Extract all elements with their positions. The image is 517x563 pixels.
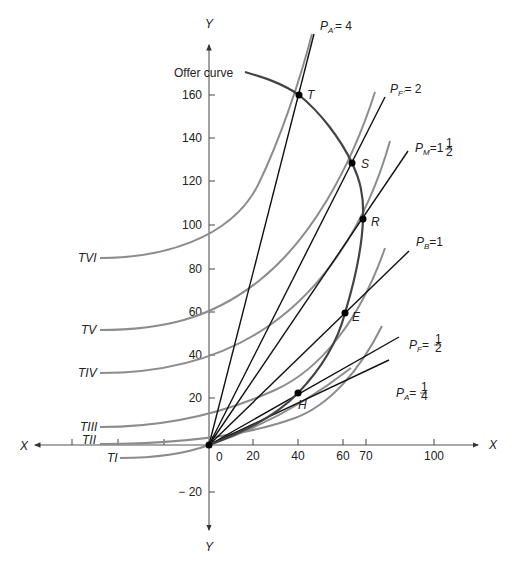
label-pf-frac-den: 2 <box>435 341 442 355</box>
offer-curve-chart: 160 140 120 100 80 60 40 20 − 20 0 20 40… <box>0 0 517 563</box>
label-TII: TII <box>82 433 97 447</box>
y-axis-label-bottom: Y <box>205 540 214 554</box>
label-TIV: TIV <box>78 366 98 380</box>
point-H <box>295 390 302 397</box>
y-tick-100: 100 <box>182 218 202 232</box>
label-pa-prime: PA'= 4 <box>320 19 352 35</box>
label-pm-frac-den: 2 <box>446 145 453 159</box>
x-tick-40: 40 <box>291 449 305 463</box>
curve-TIII <box>100 248 385 427</box>
point-label-E: E <box>352 310 361 324</box>
point-label-S: S <box>361 157 369 171</box>
point-R <box>360 216 367 223</box>
x-axis-label-right: X <box>488 438 498 452</box>
point-T <box>296 92 303 99</box>
ray-pm-1-5 <box>209 151 408 445</box>
point-label-R: R <box>371 215 380 229</box>
label-pa-frac-den: 4 <box>421 389 428 403</box>
y-axis-label-top: Y <box>205 17 214 31</box>
label-TIII: TIII <box>80 420 98 434</box>
y-tick-120: 120 <box>182 174 202 188</box>
label-pf-prime: PF'= 2 <box>390 82 422 98</box>
curve-TV <box>100 92 375 330</box>
y-tick-20: 20 <box>189 391 203 405</box>
x-tick-20: 20 <box>246 449 260 463</box>
label-pf: PF= <box>409 338 429 354</box>
y-tick-140: 140 <box>182 131 202 145</box>
x-tick-70: 70 <box>359 449 373 463</box>
x-tick-60: 60 <box>336 449 350 463</box>
point-label-T: T <box>307 88 316 102</box>
offer-curve <box>209 72 363 445</box>
label-pm: PM=1 <box>415 141 444 157</box>
curve-TIV <box>100 141 390 373</box>
x-axis-label-left: X <box>19 439 29 453</box>
point-E <box>342 310 349 317</box>
origin-point <box>206 442 213 449</box>
point-S <box>349 160 356 167</box>
label-TVI: TVI <box>78 251 97 265</box>
x-tick-100: 100 <box>424 449 444 463</box>
y-tick-minus-20: − 20 <box>178 485 202 499</box>
label-pb: PB=1 <box>416 235 443 251</box>
label-TI: TI <box>107 451 118 465</box>
y-tick-80: 80 <box>189 262 203 276</box>
label-pa: PA= <box>396 386 416 402</box>
offer-curve-label: Offer curve <box>174 66 233 80</box>
equilibrium-points: T S R E H <box>206 88 381 449</box>
origin-label: 0 <box>216 450 223 464</box>
y-tick-160: 160 <box>182 88 202 102</box>
point-label-H: H <box>298 398 307 412</box>
ray-labels: PA'= 4 PF'= 2 PM=1 1 2 PB=1 PF= 1 2 PA= … <box>320 19 453 403</box>
label-TV: TV <box>81 323 97 337</box>
indifference-curves <box>100 34 390 458</box>
curve-labels: TVI TV TIV TIII TII TI <box>78 251 118 465</box>
